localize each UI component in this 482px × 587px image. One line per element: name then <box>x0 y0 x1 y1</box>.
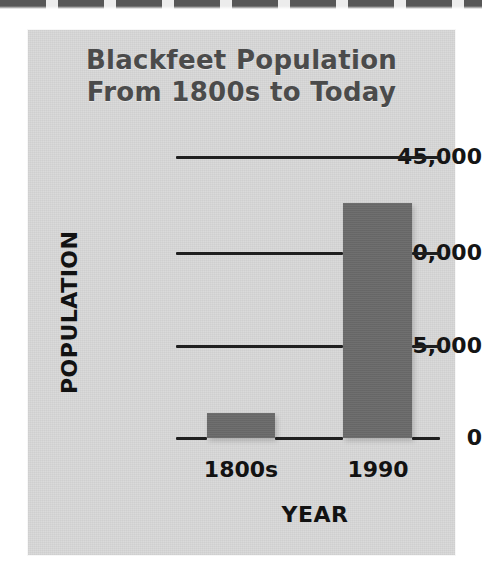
plot-area: 45,000 30,000 15,000 0 1800s 1990 YEAR P… <box>0 0 482 587</box>
bar-1990[interactable] <box>343 203 412 438</box>
baseline-segment-right <box>412 437 440 440</box>
gridline-15000 <box>176 345 343 348</box>
gridline-30000 <box>176 252 343 255</box>
gridline-stub-30000 <box>412 252 440 255</box>
chart-page: Blackfeet Population From 1800s to Today… <box>0 0 482 587</box>
x-axis-title: YEAR <box>255 503 375 527</box>
bar-1800s[interactable] <box>207 413 275 438</box>
gridline-45000 <box>176 156 440 159</box>
baseline-segment-left <box>176 437 207 440</box>
y-axis-title: POPULATION <box>58 231 82 394</box>
x-tick-label-1990: 1990 <box>318 458 438 482</box>
gridline-stub-15000 <box>412 345 440 348</box>
baseline-segment-middle <box>275 437 343 440</box>
x-tick-label-1800s: 1800s <box>181 458 301 482</box>
